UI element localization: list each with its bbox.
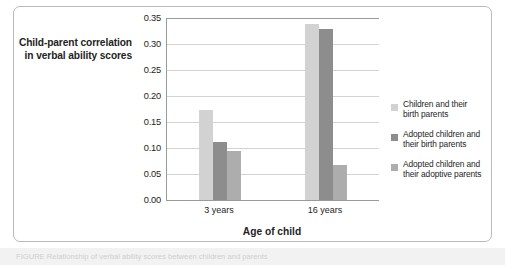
legend-label-line-1: Children and their bbox=[403, 99, 467, 109]
x-axis-title: Age of child bbox=[166, 226, 378, 237]
y-axis-title: Child-parent correlation in verbal abili… bbox=[8, 36, 132, 62]
y-axis-title-line-1: Child-parent correlation bbox=[8, 36, 132, 49]
figure-caption: FIGURE Relationship of verbal ability sc… bbox=[16, 252, 268, 261]
legend-item[interactable]: Adopted children andtheir birth parents bbox=[391, 129, 503, 149]
bar[interactable] bbox=[213, 142, 227, 200]
x-category-label: 3 years bbox=[204, 205, 234, 215]
legend-label-line-1: Adopted children and bbox=[403, 159, 481, 169]
legend-label: Adopted children andtheir adoptive paren… bbox=[403, 159, 481, 179]
caption-strip: FIGURE Relationship of verbal ability sc… bbox=[0, 248, 505, 265]
x-category-label: 16 years bbox=[308, 205, 343, 215]
legend-item[interactable]: Adopted children andtheir adoptive paren… bbox=[391, 159, 503, 179]
y-tick-label: 0.25 bbox=[133, 65, 161, 75]
y-axis-tick-labels: 0.000.050.100.150.200.250.300.35 bbox=[133, 18, 161, 200]
y-tick-label: 0.10 bbox=[133, 143, 161, 153]
legend-swatch bbox=[391, 104, 398, 111]
legend-label-line-2: their birth parents bbox=[403, 139, 480, 149]
plot-area-wrapper: 0.000.050.100.150.200.250.300.35 3 years… bbox=[133, 18, 383, 218]
bar[interactable] bbox=[305, 24, 319, 200]
y-tick-label: 0.15 bbox=[133, 117, 161, 127]
legend-label-line-1: Adopted children and bbox=[403, 129, 480, 139]
bar-group bbox=[305, 18, 347, 200]
y-axis-title-line-2: in verbal ability scores bbox=[8, 49, 132, 62]
y-tick-label: 0.30 bbox=[133, 39, 161, 49]
legend-label-line-2: birth parents bbox=[403, 109, 467, 119]
legend-item[interactable]: Children and theirbirth parents bbox=[391, 99, 503, 119]
plot-area bbox=[166, 18, 379, 201]
bar[interactable] bbox=[333, 165, 347, 200]
bar[interactable] bbox=[227, 151, 241, 200]
figure-container: Child-parent correlation in verbal abili… bbox=[0, 0, 505, 265]
y-tick-label: 0.20 bbox=[133, 91, 161, 101]
y-tick-label: 0.05 bbox=[133, 169, 161, 179]
bar[interactable] bbox=[199, 110, 213, 200]
legend-label-line-2: their adoptive parents bbox=[403, 169, 481, 179]
bar-group bbox=[199, 18, 241, 200]
legend-swatch bbox=[391, 164, 398, 171]
chart-legend: Children and theirbirth parentsAdopted c… bbox=[391, 99, 503, 189]
bar[interactable] bbox=[319, 29, 333, 200]
legend-label: Adopted children andtheir birth parents bbox=[403, 129, 480, 149]
legend-swatch bbox=[391, 134, 398, 141]
legend-label: Children and theirbirth parents bbox=[403, 99, 467, 119]
y-tick-label: 0.00 bbox=[133, 195, 161, 205]
y-tick-label: 0.35 bbox=[133, 13, 161, 23]
